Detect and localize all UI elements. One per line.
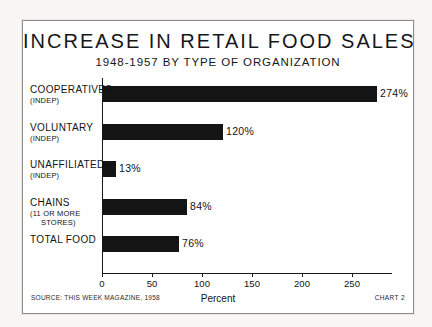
category-label-sub: (11 OR MORE xyxy=(30,209,97,218)
bar xyxy=(103,86,377,102)
bar xyxy=(103,199,187,215)
source-note: SOURCE: THIS WEEK MAGAZINE, 1958 xyxy=(31,294,160,301)
category-label-main: VOLUNTARY xyxy=(30,122,97,134)
x-axis-tick xyxy=(302,273,303,277)
x-axis-tick xyxy=(102,273,103,277)
chart-title: INCREASE IN RETAIL FOOD SALES xyxy=(23,30,413,53)
bar-row: 76% xyxy=(102,236,392,252)
bar-value-label: 84% xyxy=(190,200,212,212)
bar-value-label: 13% xyxy=(119,162,141,174)
category-label-sub: (INDEP) xyxy=(30,96,97,105)
category-label-main: TOTAL FOOD xyxy=(30,234,97,246)
x-axis-tick-label: 250 xyxy=(344,278,360,289)
plot-area: 274%120%13%84%76% 050100150200250 xyxy=(102,78,392,274)
x-axis-tick xyxy=(202,273,203,277)
x-axis-tick xyxy=(252,273,253,277)
category-label-sub2: STORES) xyxy=(30,218,97,227)
category-label: TOTAL FOOD xyxy=(23,234,97,246)
bar-row: 84% xyxy=(102,199,392,215)
chart-frame: INCREASE IN RETAIL FOOD SALES 1948-1957 … xyxy=(22,20,414,314)
category-label-main: CHAINS xyxy=(30,197,97,209)
chart-page: INCREASE IN RETAIL FOOD SALES 1948-1957 … xyxy=(0,0,432,327)
chart-subtitle: 1948-1957 BY TYPE OF ORGANIZATION xyxy=(23,56,413,68)
category-label-main: COOPERATIVES xyxy=(30,84,97,96)
bar-row: 120% xyxy=(102,124,392,140)
category-label-main: UNAFFILIATED xyxy=(30,159,97,171)
category-label: CHAINS(11 OR MORESTORES) xyxy=(23,197,97,227)
bar-value-label: 76% xyxy=(182,237,204,249)
bar xyxy=(103,236,179,252)
x-axis-tick-label: 200 xyxy=(294,278,310,289)
category-label: COOPERATIVES(INDEP) xyxy=(23,84,97,105)
category-label: UNAFFILIATED(INDEP) xyxy=(23,159,97,180)
x-axis-tick-label: 0 xyxy=(99,278,104,289)
x-axis-tick-label: 100 xyxy=(194,278,210,289)
bar-row: 274% xyxy=(102,86,392,102)
x-axis-tick-label: 150 xyxy=(244,278,260,289)
x-axis-tick-label: 50 xyxy=(147,278,158,289)
bar-value-label: 274% xyxy=(380,87,408,99)
bar xyxy=(103,124,223,140)
x-axis-line xyxy=(102,273,392,274)
x-axis-tick xyxy=(152,273,153,277)
x-axis-tick xyxy=(352,273,353,277)
chart-number-label: CHART 2 xyxy=(375,294,405,301)
bar-value-label: 120% xyxy=(226,125,254,137)
category-label-sub: (INDEP) xyxy=(30,134,97,143)
category-label: VOLUNTARY(INDEP) xyxy=(23,122,97,143)
bar-row: 13% xyxy=(102,161,392,177)
category-label-sub: (INDEP) xyxy=(30,171,97,180)
bar xyxy=(103,161,116,177)
